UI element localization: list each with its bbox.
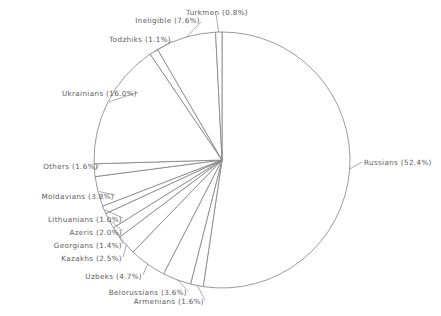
pie-label-armenians: Armenians (1.6%) [134, 297, 204, 306]
pie-label-ukrainians: Ukrainians (16.0%) [62, 89, 137, 98]
pie-label-kazakhs: Kazakhs (2.5%) [61, 254, 122, 263]
pie-label-georgians: Georgians (1.4%) [54, 241, 122, 250]
pie-label-lithuanians: Lithuanians (1.0%) [48, 215, 122, 224]
pie-label-azeris: Azeris (2.0%) [69, 228, 122, 237]
pie-slice [203, 32, 350, 288]
pie-label-belorussians: Belorussians (3.6%) [109, 288, 187, 297]
pie-label-ineligible: Ineligible (7.6%) [135, 16, 200, 25]
pie-label-moldavians: Moldavians (3.8%) [41, 192, 114, 201]
pie-chart-figure: Russians (52.4%) Armenians (1.6%) Beloru… [0, 0, 441, 316]
pie-slices-group [94, 32, 350, 288]
pie-label-russians: Russians (52.4%) [364, 158, 432, 167]
leader-line [123, 244, 127, 257]
leader-line [143, 264, 148, 275]
pie-label-others: Others (1.6%) [43, 162, 98, 171]
pie-label-todzhiks: Todzhiks (1.1%) [109, 35, 171, 44]
pie-label-uzbeks: Uzbeks (4.7%) [85, 272, 142, 281]
pie-label-turkmen: Turkmen (0.8%) [186, 8, 248, 17]
leader-line [349, 162, 362, 169]
